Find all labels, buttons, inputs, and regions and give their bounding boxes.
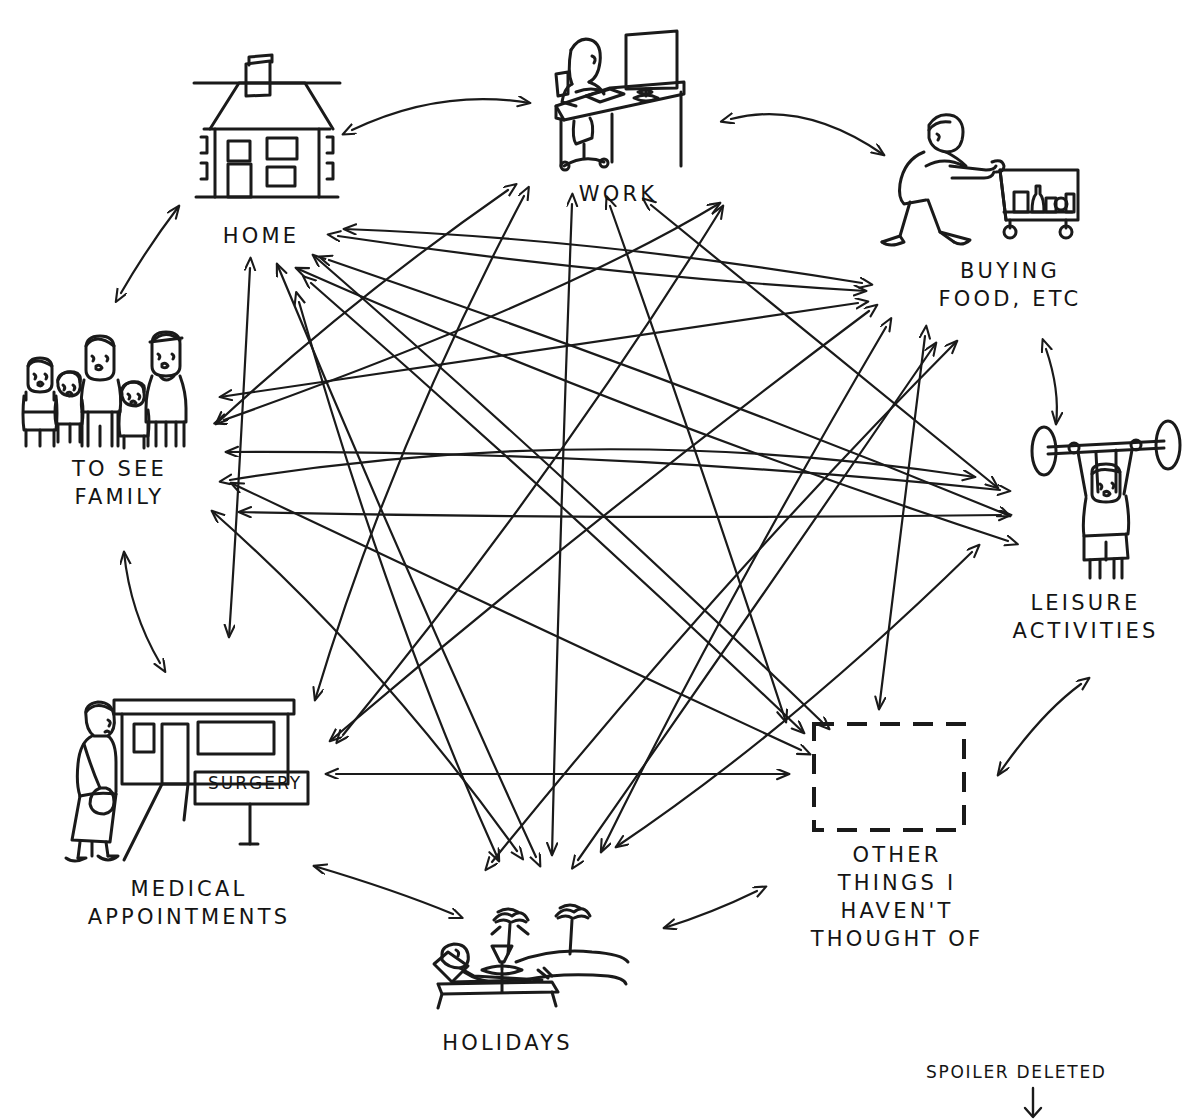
surgery-sign-text: SURGERY: [196, 773, 314, 793]
shopping-trolley-icon: [866, 108, 1086, 248]
node-label-medical: MEDICAL APPOINTMENTS: [39, 875, 339, 931]
family-group-icon: [12, 326, 192, 452]
node-label-leisure: LEISURE ACTIVITIES: [968, 589, 1203, 645]
node-label-holidays: HOLIDAYS: [380, 1029, 635, 1057]
down-arrow-icon: [1020, 1086, 1046, 1120]
dashed-empty-box-icon: [811, 721, 967, 833]
weightlifter-icon: [1022, 420, 1190, 582]
node-label-other: OTHER THINGS I HAVEN'T THOUGHT OF: [782, 841, 1012, 954]
spoiler-deleted-text: SPOILER DELETED: [926, 1062, 1107, 1082]
node-label-work: WORK: [513, 180, 723, 208]
beach-lounger-icon: [412, 892, 642, 1012]
person-at-desk-icon: [534, 26, 710, 169]
node-label-home: HOME: [161, 222, 361, 250]
node-label-buying-food: BUYING FOOD, ETC: [885, 257, 1135, 313]
house-icon: [182, 50, 352, 208]
node-label-family: TO SEE FAMILY: [12, 455, 227, 511]
